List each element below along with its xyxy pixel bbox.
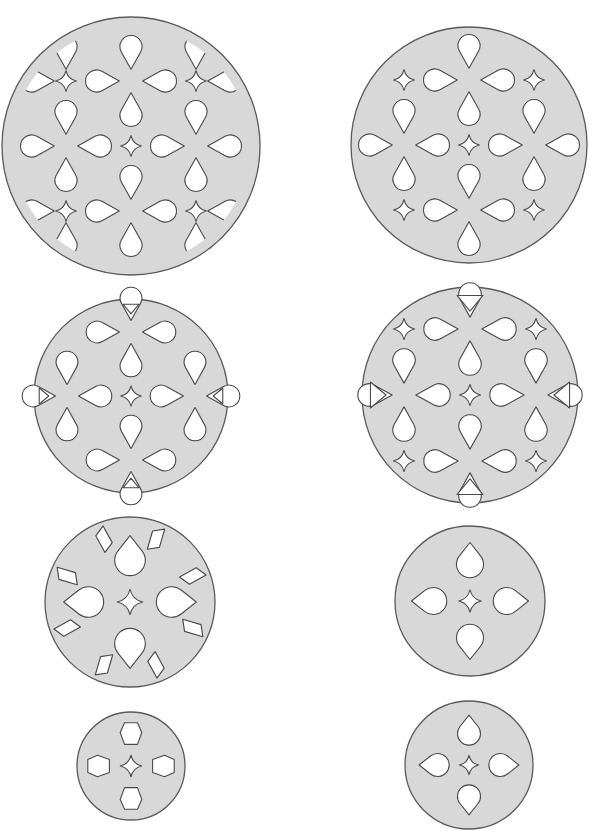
hexagon-hole (120, 723, 142, 745)
hexagon-hole (153, 755, 175, 777)
cutout-discs-diagram (0, 0, 592, 832)
disc-1 (2, 17, 260, 275)
disc-layer (2, 17, 587, 829)
disc-5 (45, 517, 215, 687)
disc-8 (405, 701, 533, 829)
disc-3 (22, 287, 240, 505)
hexagon-hole (88, 755, 110, 777)
disc-2 (351, 27, 587, 263)
disc-4 (358, 283, 582, 507)
hexagon-hole (120, 788, 142, 810)
disc-6 (395, 526, 545, 676)
disc-7 (77, 712, 185, 820)
